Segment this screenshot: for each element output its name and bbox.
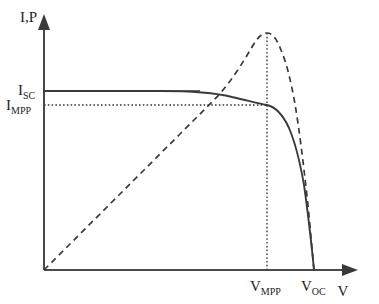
- figure-container: I,P V ISC IMPP VMPP VOC: [0, 0, 379, 304]
- iv-pv-characteristic-chart: I,P V ISC IMPP VMPP VOC: [0, 0, 379, 304]
- y-axis-title: I,P: [20, 9, 37, 25]
- chart-background: [0, 0, 379, 304]
- x-axis-title: V: [338, 283, 349, 299]
